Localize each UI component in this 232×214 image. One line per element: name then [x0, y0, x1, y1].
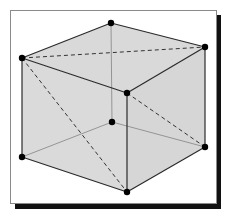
vertex-bottom-left [19, 154, 25, 160]
cube-diagram [0, 0, 232, 214]
vertex-top-right [202, 44, 208, 50]
vertex-top-back [108, 20, 114, 26]
vertex-bottom-front [124, 189, 130, 195]
vertex-bottom-right [202, 144, 208, 150]
vertex-top-left [19, 55, 25, 61]
figure-canvas [0, 0, 232, 214]
vertex-top-front [124, 90, 130, 96]
vertex-bottom-back [109, 119, 115, 125]
